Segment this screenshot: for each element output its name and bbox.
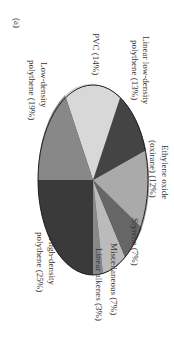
label-hdpe-1: High-density xyxy=(47,238,57,285)
label-alkenes: Linear alkenes (3%) xyxy=(94,248,104,321)
label-eo-2: (oxirane) (12%) xyxy=(148,140,158,198)
label-eo-1: Ethylene oxide xyxy=(160,145,170,199)
label-hdpe-2: polythene (25%) xyxy=(35,232,45,292)
label-misc: Miscellaneous (7%) xyxy=(109,243,119,315)
label-pvc: PVC (14%) xyxy=(91,33,101,75)
label-ldpe-2: polythene (19%) xyxy=(27,60,37,120)
label-styrene: Styrene (7%) xyxy=(130,218,140,266)
panel-label: (a) xyxy=(12,18,22,28)
label-lldpe-1: Linear low-density xyxy=(141,36,151,104)
label-ldpe-1: Low-density xyxy=(39,62,49,108)
label-lldpe-2: polythene (13%) xyxy=(130,40,140,100)
